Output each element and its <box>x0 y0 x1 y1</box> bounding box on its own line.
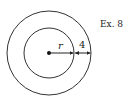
exercise-label: Ex. 8 <box>100 19 123 29</box>
gap-label: 4 <box>79 39 85 50</box>
concentric-circles-diagram: r 4 Ex. 8 <box>0 0 129 102</box>
radius-label: r <box>58 40 64 51</box>
